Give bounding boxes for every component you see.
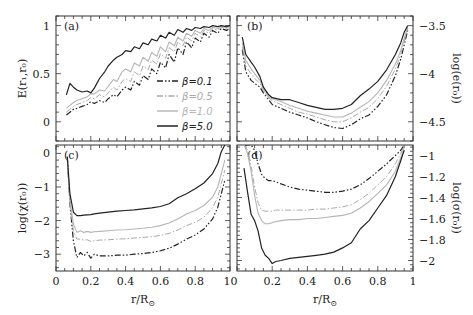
panel-d: −1−1.2−1.4−1.6−1.8−200.20.40.60.81r/R⊙lo… [231,145,464,308]
y-tick-label: 0 [43,147,50,160]
panel-label: (a) [64,20,79,33]
x-tick-label: 0.6 [152,275,170,288]
plot-frame [237,16,413,141]
panel-c: 0−1−2−300.20.40.60.81r/R⊙log(χ(r₀))(c) [16,145,231,308]
y-tick-label: −3.5 [419,20,446,33]
series-line [242,28,407,118]
y-tick-label: 1 [43,20,50,33]
x-tick-label: 1 [224,275,231,288]
x-axis-label: r/R⊙ [313,293,337,308]
panel-label: (c) [64,149,79,162]
y-axis-label: E(r₁,r₀) [16,59,29,98]
legend-label: β=0.5 [181,91,213,102]
y-tick-label: −1 [419,150,435,163]
x-tick-label: 0.8 [186,275,204,288]
y-tick-label: −4 [419,68,435,81]
series-line [67,145,225,216]
x-tick-label: 0.2 [82,275,100,288]
y-tick-label: −1.4 [419,192,446,205]
x-tick-label: 0.6 [334,275,352,288]
series-line [67,157,225,242]
x-tick-label: 0.4 [117,275,135,288]
panel-a: 00.51E(r₁,r₀)(a)β=0.1β=0.5β=1.0β=5.0 [16,16,230,141]
y-tick-label: −1.2 [419,171,446,184]
x-tick-label: 1 [410,275,417,288]
figure: 00.51E(r₁,r₀)(a)β=0.1β=0.5β=1.0β=5.0−3.5… [0,0,473,315]
x-tick-label: 0.8 [369,275,387,288]
legend: β=0.1β=0.5β=1.0β=5.0 [157,76,213,132]
x-tick-label: 0.2 [263,275,281,288]
y-tick-label: −1.8 [419,234,446,247]
y-axis-label: log(χ(r₀)) [16,183,29,234]
panel-b: −3.5−4−4.5log(e(r₀))(b) [237,16,463,141]
legend-label: β=5.0 [181,121,213,132]
y-tick-label: −1 [34,181,50,194]
x-tick-label: 0 [231,275,238,288]
y-tick-label: −4.5 [419,116,446,129]
panel-label: (b) [247,20,263,33]
series-line [67,157,225,233]
series-line [244,145,404,211]
legend-label: β=1.0 [181,106,213,117]
series-line [242,26,407,110]
series-line [244,150,404,263]
x-tick-label: 0 [53,275,60,288]
series-line [66,29,230,116]
x-tick-label: 0.4 [299,275,317,288]
y-tick-label: −1.6 [419,213,446,226]
y-axis-label: log(e(r₀)) [450,53,463,104]
y-tick-label: 0 [43,116,50,129]
y-axis-label: log(σ(r₀)) [450,182,463,234]
legend-label: β=0.1 [181,76,213,87]
y-tick-label: −2 [419,255,435,268]
y-tick-label: 0.5 [33,68,51,81]
plot-frame [56,145,230,271]
series-line [244,145,404,224]
series-line [244,145,404,192]
y-tick-label: −2 [34,215,50,228]
series-line [242,30,407,128]
x-axis-label: r/R⊙ [131,293,155,308]
y-tick-label: −3 [34,248,50,261]
